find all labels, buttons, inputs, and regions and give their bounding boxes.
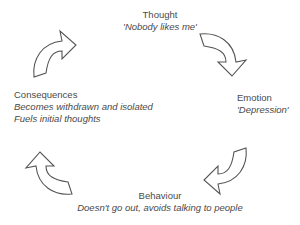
curved-arrow-icon: [200, 146, 250, 196]
curved-arrow-icon: [30, 29, 80, 79]
node-consequences-subtitle-1: Becomes withdrawn and isolated: [14, 101, 153, 113]
node-consequences: Consequences Becomes withdrawn and isola…: [14, 89, 153, 125]
node-emotion-subtitle: 'Depression': [237, 104, 289, 116]
node-thought-title: Thought: [100, 9, 220, 21]
node-emotion: Emotion 'Depression': [237, 92, 289, 116]
node-consequences-subtitle-2: Fuels initial thoughts: [14, 113, 153, 125]
curved-arrow-icon: [24, 148, 74, 198]
curved-arrow-icon: [198, 30, 248, 80]
node-consequences-title: Consequences: [14, 89, 153, 101]
node-emotion-title: Emotion: [237, 92, 289, 104]
node-behaviour-subtitle: Doesn't go out, avoids talking to people: [60, 202, 260, 214]
